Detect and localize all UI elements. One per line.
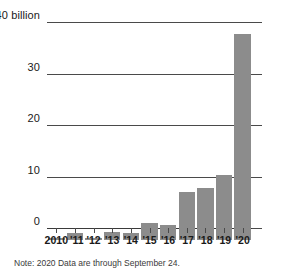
- grid-stub-40: [252, 22, 262, 23]
- grid-stub-20: [252, 125, 262, 126]
- x-tick-2011: [75, 228, 76, 233]
- bar-slot-2018: [196, 22, 215, 240]
- x-tick-2016: [168, 228, 169, 233]
- plot-area: $40 billion 30 20 10 0: [47, 10, 262, 240]
- bar-slot-2012: [84, 22, 103, 240]
- grid-stub-30: [252, 74, 262, 75]
- x-tick-2010: [56, 228, 57, 233]
- bar-slot-2020: [233, 22, 252, 240]
- bar-2020: [234, 34, 251, 240]
- y-axis-label-0: 0: [34, 216, 40, 227]
- x-tick-2015: [150, 228, 151, 233]
- bar-slot-2014: [122, 22, 141, 240]
- y-axis-label-40: $40 billion: [0, 10, 40, 21]
- x-tick-2013: [112, 228, 113, 233]
- bar-slot-2016: [159, 22, 178, 240]
- bar-chart: $40 billion 30 20 10 0: [0, 0, 282, 276]
- x-tick-2018: [205, 228, 206, 233]
- bar-slot-2019: [215, 22, 234, 240]
- x-tick-2014: [131, 228, 132, 233]
- x-axis-labels: 2010 '11 '12 '13 '14 '15 '16 '17 '18 '19…: [47, 234, 252, 248]
- bar-slot-2010: [47, 22, 66, 240]
- y-axis-label-20: 20: [28, 113, 40, 124]
- chart-note: Note: 2020 Data are through September 24…: [14, 258, 180, 268]
- bar-slot-2011: [66, 22, 85, 240]
- y-axis-label-30: 30: [28, 62, 40, 73]
- x-tick-2020: [243, 228, 244, 233]
- grid-stub-10: [252, 177, 262, 178]
- x-axis-label-2020: '20: [230, 234, 256, 246]
- x-tick-2019: [224, 228, 225, 233]
- bar-slot-2015: [140, 22, 159, 240]
- bar-slot-2013: [103, 22, 122, 240]
- y-axis-label-10: 10: [28, 165, 40, 176]
- bar-slot-2017: [178, 22, 197, 240]
- grid-stub-0: [252, 228, 262, 229]
- x-tick-2012: [94, 228, 95, 233]
- bar-series: [47, 22, 252, 240]
- x-tick-2017: [187, 228, 188, 233]
